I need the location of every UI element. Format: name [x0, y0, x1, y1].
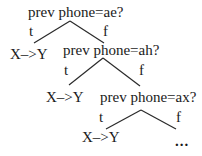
node3-false-label: f — [176, 110, 181, 125]
edge-node2-false — [103, 58, 140, 86]
node2-true-leaf: X–>Y — [46, 90, 84, 105]
edge-node1-true — [34, 21, 70, 43]
node2-true-label: t — [64, 63, 68, 78]
node1-true-leaf: X–>Y — [10, 47, 48, 62]
edge-node1-false — [70, 21, 104, 43]
edge-node3-false — [141, 110, 176, 129]
node3-true-label: t — [99, 110, 103, 125]
ellipsis-continuation: ... — [175, 134, 189, 149]
node1-true-label: t — [29, 24, 33, 39]
node1-false-label: f — [103, 24, 108, 39]
node2-question: prev phone=ah? — [63, 43, 159, 58]
edge-node2-true — [69, 58, 103, 85]
node1-question: prev phone=ae? — [28, 5, 124, 20]
decision-tree-diagram: prev phone=ae? t f X–>Y prev phone=ah? t… — [0, 0, 202, 156]
node3-true-leaf: X–>Y — [82, 130, 120, 145]
node2-false-label: f — [139, 63, 144, 78]
node3-question: prev phone=ax? — [100, 90, 196, 105]
edge-node3-true — [106, 110, 141, 129]
